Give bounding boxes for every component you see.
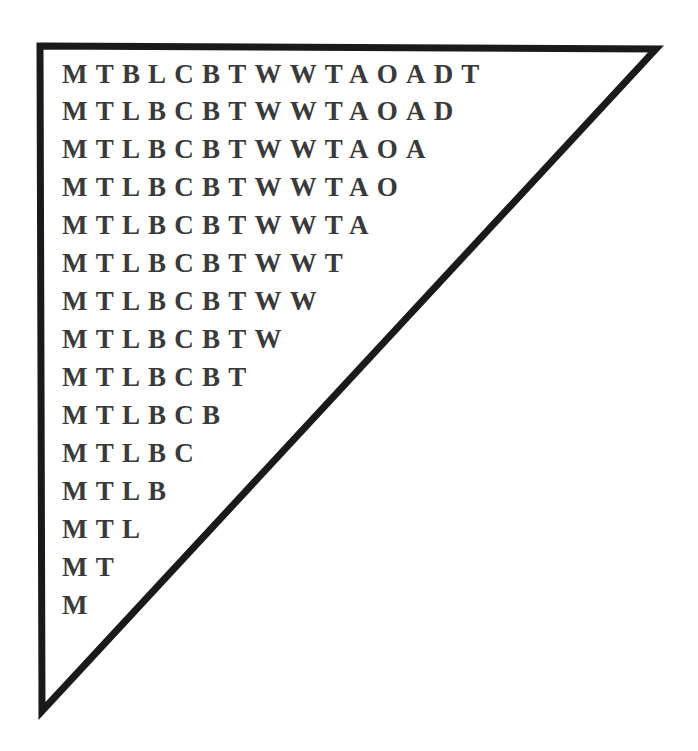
row-14: MT <box>62 554 122 581</box>
row-9: MTLBCBT <box>62 364 254 391</box>
letter-triangle-diagram: MTBLCBTWWTAOADT MTLBCBTWWTAOAD MTLBCBTWW… <box>0 0 698 751</box>
row-12: MTLB <box>62 478 174 505</box>
row-1: MTBLCBTWWTAOADT <box>62 61 488 88</box>
row-7: MTLBCBTWW <box>62 288 325 315</box>
row-8: MTLBCBTW <box>62 326 290 353</box>
row-2: MTLBCBTWWTAOAD <box>62 98 461 125</box>
row-6: MTLBCBTWWT <box>62 250 351 277</box>
row-4: MTLBCBTWWTAO <box>62 174 406 201</box>
row-11: MTLBC <box>62 440 202 467</box>
row-10: MTLBCB <box>62 402 228 429</box>
row-5: MTLBCBTWWTA <box>62 212 377 239</box>
row-15: M <box>62 592 96 619</box>
row-3: MTLBCBTWWTAOA <box>62 136 434 163</box>
row-13: MTL <box>62 516 148 543</box>
